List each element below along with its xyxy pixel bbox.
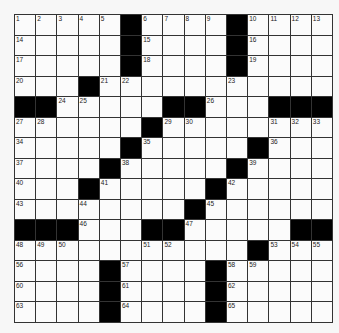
grid-cell[interactable] [121, 179, 141, 199]
grid-cell[interactable] [163, 261, 183, 281]
grid-cell[interactable] [227, 241, 247, 261]
grid-cell[interactable]: 17 [15, 56, 35, 76]
grid-cell[interactable]: 32 [291, 118, 311, 138]
grid-cell[interactable]: 48 [15, 241, 35, 261]
grid-cell[interactable] [100, 200, 120, 220]
grid-cell[interactable] [79, 159, 99, 179]
grid-cell[interactable] [163, 36, 183, 56]
grid-cell[interactable]: 21 [100, 77, 120, 97]
grid-cell[interactable]: 54 [291, 241, 311, 261]
grid-cell[interactable]: 33 [312, 118, 332, 138]
grid-cell[interactable]: 1 [15, 15, 35, 35]
grid-cell[interactable] [269, 36, 289, 56]
grid-cell[interactable]: 11 [269, 15, 289, 35]
grid-cell[interactable]: 27 [15, 118, 35, 138]
grid-cell[interactable] [142, 302, 162, 322]
grid-cell[interactable] [291, 36, 311, 56]
grid-cell[interactable] [79, 56, 99, 76]
grid-cell[interactable]: 7 [163, 15, 183, 35]
grid-cell[interactable] [291, 302, 311, 322]
grid-cell[interactable] [227, 138, 247, 158]
grid-cell[interactable] [142, 179, 162, 199]
grid-cell[interactable] [57, 56, 77, 76]
grid-cell[interactable]: 20 [15, 77, 35, 97]
grid-cell[interactable] [100, 241, 120, 261]
grid-cell[interactable] [79, 36, 99, 56]
grid-cell[interactable] [36, 282, 56, 302]
grid-cell[interactable] [163, 200, 183, 220]
grid-cell[interactable]: 24 [57, 97, 77, 117]
grid-cell[interactable] [163, 179, 183, 199]
grid-cell[interactable] [185, 56, 205, 76]
grid-cell[interactable]: 41 [100, 179, 120, 199]
grid-cell[interactable]: 51 [142, 241, 162, 261]
grid-cell[interactable]: 6 [142, 15, 162, 35]
grid-cell[interactable] [206, 118, 226, 138]
grid-cell[interactable] [269, 282, 289, 302]
grid-cell[interactable] [79, 282, 99, 302]
grid-cell[interactable] [227, 118, 247, 138]
grid-cell[interactable] [248, 118, 268, 138]
grid-cell[interactable] [36, 179, 56, 199]
grid-cell[interactable] [142, 77, 162, 97]
grid-cell[interactable]: 58 [227, 261, 247, 281]
grid-cell[interactable] [291, 282, 311, 302]
grid-cell[interactable]: 5 [100, 15, 120, 35]
grid-cell[interactable]: 14 [15, 36, 35, 56]
grid-cell[interactable]: 60 [15, 282, 35, 302]
grid-cell[interactable] [269, 200, 289, 220]
grid-cell[interactable]: 64 [121, 302, 141, 322]
grid-cell[interactable] [36, 36, 56, 56]
grid-cell[interactable] [142, 261, 162, 281]
grid-cell[interactable]: 29 [163, 118, 183, 138]
grid-cell[interactable] [79, 261, 99, 281]
grid-cell[interactable] [57, 179, 77, 199]
grid-cell[interactable]: 61 [121, 282, 141, 302]
grid-cell[interactable] [36, 138, 56, 158]
grid-cell[interactable] [142, 282, 162, 302]
grid-cell[interactable] [36, 77, 56, 97]
grid-cell[interactable] [185, 302, 205, 322]
grid-cell[interactable] [227, 97, 247, 117]
grid-cell[interactable] [248, 200, 268, 220]
grid-cell[interactable] [248, 77, 268, 97]
grid-cell[interactable] [206, 159, 226, 179]
grid-cell[interactable]: 28 [36, 118, 56, 138]
grid-cell[interactable] [57, 261, 77, 281]
grid-cell[interactable] [291, 179, 311, 199]
grid-cell[interactable]: 26 [206, 97, 226, 117]
grid-cell[interactable] [79, 138, 99, 158]
grid-cell[interactable] [291, 138, 311, 158]
grid-cell[interactable] [121, 97, 141, 117]
grid-cell[interactable]: 44 [79, 200, 99, 220]
grid-cell[interactable] [142, 159, 162, 179]
grid-cell[interactable] [57, 159, 77, 179]
grid-cell[interactable] [100, 118, 120, 138]
grid-cell[interactable] [100, 220, 120, 240]
grid-cell[interactable] [100, 97, 120, 117]
grid-cell[interactable]: 57 [121, 261, 141, 281]
grid-cell[interactable] [312, 77, 332, 97]
grid-cell[interactable] [57, 138, 77, 158]
grid-cell[interactable] [269, 159, 289, 179]
grid-cell[interactable] [36, 56, 56, 76]
grid-cell[interactable] [185, 36, 205, 56]
grid-cell[interactable] [36, 200, 56, 220]
grid-cell[interactable]: 42 [227, 179, 247, 199]
grid-cell[interactable]: 2 [36, 15, 56, 35]
grid-cell[interactable] [269, 77, 289, 97]
grid-cell[interactable]: 36 [269, 138, 289, 158]
grid-cell[interactable] [163, 77, 183, 97]
grid-cell[interactable]: 34 [15, 138, 35, 158]
grid-cell[interactable]: 19 [248, 56, 268, 76]
grid-cell[interactable]: 46 [79, 220, 99, 240]
grid-cell[interactable]: 31 [269, 118, 289, 138]
grid-cell[interactable] [206, 36, 226, 56]
grid-cell[interactable] [248, 220, 268, 240]
grid-cell[interactable] [100, 36, 120, 56]
grid-cell[interactable]: 30 [185, 118, 205, 138]
grid-cell[interactable] [248, 97, 268, 117]
grid-cell[interactable] [291, 261, 311, 281]
grid-cell[interactable] [312, 261, 332, 281]
grid-cell[interactable]: 10 [248, 15, 268, 35]
